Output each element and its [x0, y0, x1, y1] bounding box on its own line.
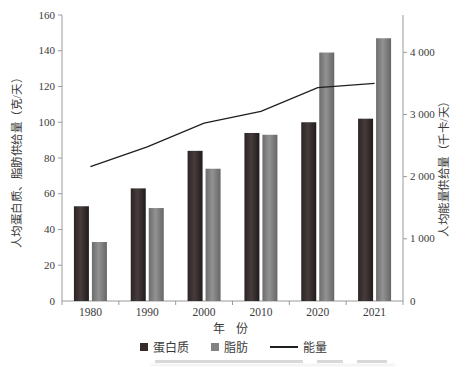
- left-tick-label: 20: [44, 259, 56, 271]
- nutrition-supply-combo-chart: 02040608010012014016001 0002 0003 0004 0…: [0, 0, 467, 367]
- chart-legend: 蛋白质 脂肪 能量: [0, 338, 467, 356]
- right-tick-label: 2 000: [410, 170, 435, 182]
- bar-fat-2000: [206, 169, 221, 301]
- bar-protein-1990: [131, 188, 146, 301]
- left-tick-label: 100: [39, 116, 56, 128]
- right-tick-label: 1 000: [410, 232, 435, 244]
- protein-swatch: [140, 343, 148, 351]
- x-tick-label: 1990: [136, 306, 159, 318]
- cropped-caption-remnant-2: [150, 364, 395, 366]
- bar-fat-1980: [92, 242, 107, 301]
- legend-label-energy: 能量: [303, 338, 327, 356]
- left-tick-label: 60: [44, 187, 56, 199]
- fat-swatch: [211, 343, 219, 351]
- bar-protein-2020: [301, 122, 316, 301]
- left-tick-label: 80: [44, 152, 56, 164]
- legend-item-energy: 能量: [270, 338, 327, 356]
- right-tick-label: 4 000: [410, 46, 435, 58]
- legend-label-fat: 脂肪: [224, 338, 248, 356]
- left-tick-label: 120: [39, 80, 56, 92]
- x-tick-label: 2020: [306, 306, 329, 318]
- legend-item-fat: 脂肪: [211, 338, 248, 356]
- energy-line-swatch: [270, 346, 298, 348]
- left-tick-label: 0: [50, 295, 56, 307]
- x-axis-title: 年 份: [62, 319, 403, 337]
- chart-canvas: 02040608010012014016001 0002 0003 0004 0…: [0, 0, 467, 360]
- left-tick-label: 160: [39, 9, 56, 21]
- left-tick-label: 40: [44, 223, 56, 235]
- bar-fat-2010: [262, 135, 277, 301]
- bar-fat-2020: [319, 53, 334, 301]
- x-tick-label: 1980: [79, 306, 102, 318]
- right-tick-label: 3 000: [410, 108, 435, 120]
- right-tick-label: 0: [410, 295, 416, 307]
- x-tick-label: 2021: [363, 306, 386, 318]
- x-tick-label: 2010: [249, 306, 272, 318]
- legend-item-protein: 蛋白质: [140, 338, 189, 356]
- x-tick-label: 2000: [193, 306, 216, 318]
- left-tick-label: 140: [39, 44, 56, 56]
- bar-fat-2021: [376, 38, 391, 301]
- bar-protein-1980: [74, 206, 89, 301]
- bar-protein-2000: [188, 151, 203, 301]
- bar-protein-2010: [244, 133, 259, 301]
- legend-label-protein: 蛋白质: [153, 338, 189, 356]
- bar-fat-1990: [149, 208, 164, 301]
- left-y-axis-title: 人均蛋白质、脂肪供给量（克/天）: [9, 50, 25, 270]
- bar-protein-2021: [358, 119, 373, 301]
- right-y-axis-title: 人均能量供给量（千卡/天）: [436, 66, 452, 266]
